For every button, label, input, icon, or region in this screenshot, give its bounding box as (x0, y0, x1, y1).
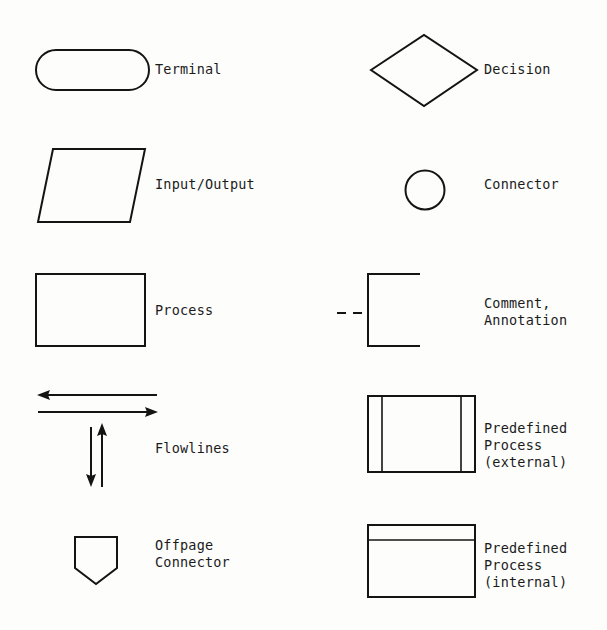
comment-annotation-shape (330, 268, 430, 358)
decision-label-line-1: Decision (484, 61, 551, 77)
input-output-label: Input/Output (155, 176, 255, 193)
process-label-line-1: Process (155, 302, 213, 318)
offpage-connector-shape (68, 530, 128, 592)
predefined-process-internal-label-line-3: (internal) (484, 574, 567, 590)
predefined-process-external-label-line-1: Predefined (484, 420, 567, 436)
connector-label: Connector (484, 176, 559, 193)
decision-shape (364, 28, 486, 114)
predefined-process-external-label-line-2: Process (484, 437, 542, 453)
predefined-process-external-label-line-3: (external) (484, 454, 567, 470)
terminal-label-line-1: Terminal (155, 61, 222, 77)
predefined-process-external-label: PredefinedProcess(external) (484, 420, 567, 471)
flowlines-label-line-1: Flowlines (155, 440, 230, 456)
process-shape (30, 268, 155, 358)
flowlines-label: Flowlines (155, 440, 230, 457)
input-output-label-line-1: Input/Output (155, 176, 255, 192)
comment-annotation-label-line-1: Comment, (484, 295, 551, 311)
flowchart-symbol-legend: Terminal Input/Output Process Flowli (0, 0, 607, 630)
input-output-shape (30, 143, 155, 233)
predefined-process-internal-label: PredefinedProcess(internal) (484, 540, 567, 591)
comment-annotation-label: Comment,Annotation (484, 295, 567, 329)
predefined-process-internal-label-line-1: Predefined (484, 540, 567, 556)
connector-label-line-1: Connector (484, 176, 559, 192)
flowlines-shape (28, 385, 168, 497)
terminal-label: Terminal (155, 61, 222, 78)
offpage-connector-label-line-2: Connector (155, 554, 230, 570)
connector-shape (398, 163, 452, 217)
offpage-connector-label: OffpageConnector (155, 537, 230, 571)
terminal-shape (30, 44, 155, 96)
decision-label: Decision (484, 61, 551, 78)
process-label: Process (155, 302, 213, 319)
comment-annotation-label-line-2: Annotation (484, 312, 567, 328)
predefined-process-internal-label-line-2: Process (484, 557, 542, 573)
predefined-process-internal-shape (362, 519, 487, 609)
offpage-connector-label-line-1: Offpage (155, 537, 213, 553)
predefined-process-external-shape (362, 390, 487, 482)
